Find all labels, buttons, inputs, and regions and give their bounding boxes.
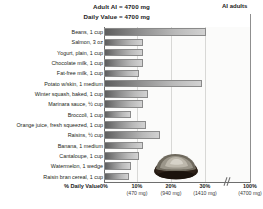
bar-row-label: Salmon, 3 oz bbox=[8, 37, 103, 47]
bar bbox=[104, 49, 143, 57]
x-tick-percent: 30% bbox=[185, 183, 225, 190]
bar-row: Raisin bran cereal, 1 cup bbox=[0, 172, 263, 182]
bar bbox=[104, 121, 146, 129]
bar-row: Banana, 1 medium bbox=[0, 141, 263, 151]
bar bbox=[104, 131, 160, 139]
header-daily-value: Daily Value = 4700 mg bbox=[0, 12, 150, 22]
bar-row: Orange juice, fresh squeezed, 1 cup bbox=[0, 120, 263, 130]
chart-header: Adult AI = 4700 mg Daily Value = 4700 mg bbox=[0, 2, 150, 21]
bar bbox=[104, 28, 206, 36]
bar-row: Broccoli, 1 cup bbox=[0, 110, 263, 120]
bar-row: Potato w/skin, 1 medium bbox=[0, 79, 263, 89]
bar-row-label: Winter squash, baked, 1 cup bbox=[8, 89, 103, 99]
bar-row: Cantaloupe, 1 cup bbox=[0, 151, 263, 161]
bar bbox=[104, 59, 143, 67]
x-tick-mg: (1410 mg) bbox=[185, 190, 225, 198]
potassium-bar-chart: Adult AI = 4700 mg Daily Value = 4700 mg… bbox=[0, 0, 263, 209]
x-tick-mg: (4700 mg) bbox=[230, 190, 263, 198]
bar-row: Chocolate milk, 1 cup bbox=[0, 58, 263, 68]
bar-rows: Beans, 1 cupSalmon, 3 ozYogurt, plain, 1… bbox=[0, 27, 263, 182]
bar-row-label: Broccoli, 1 cup bbox=[8, 110, 103, 120]
bar-row: Watermelon, 1 wedge bbox=[0, 161, 263, 171]
x-tick: 30%(1410 mg) bbox=[185, 183, 225, 198]
bar-row: Fat-free milk, 1 cup bbox=[0, 68, 263, 78]
bar-row-label: Marinara sauce, ½ cup bbox=[8, 99, 103, 109]
bar bbox=[104, 100, 143, 108]
x-axis-ticks: 0%10%(470 mg)20%(940 mg)30%(1410 mg)100%… bbox=[0, 183, 263, 207]
bar bbox=[104, 90, 148, 98]
bar-row: Marinara sauce, ½ cup bbox=[0, 99, 263, 109]
bar-row-label: Fat-free milk, 1 cup bbox=[8, 68, 103, 78]
bar-row: Yogurt, plain, 1 cup bbox=[0, 48, 263, 58]
bar-row-label: Potato w/skin, 1 medium bbox=[8, 79, 103, 89]
bar bbox=[104, 173, 129, 181]
bar bbox=[104, 142, 143, 150]
bar-row-label: Banana, 1 medium bbox=[8, 141, 103, 151]
potato-photo bbox=[152, 150, 200, 180]
bar-row: Beans, 1 cup bbox=[0, 27, 263, 37]
bar-row-label: Watermelon, 1 wedge bbox=[8, 161, 103, 171]
bar-row-label: Raisins, ½ cup bbox=[8, 130, 103, 140]
bar-row: Salmon, 3 oz bbox=[0, 37, 263, 47]
bar-row-label: Chocolate milk, 1 cup bbox=[8, 58, 103, 68]
bar bbox=[104, 39, 143, 47]
bar bbox=[104, 152, 139, 160]
bar bbox=[104, 111, 131, 119]
bar-row-label: Orange juice, fresh squeezed, 1 cup bbox=[8, 120, 103, 130]
bar-row-label: Yogurt, plain, 1 cup bbox=[8, 48, 103, 58]
bar-row: Winter squash, baked, 1 cup bbox=[0, 89, 263, 99]
bar-row: Raisins, ½ cup bbox=[0, 130, 263, 140]
bar-row-label: Raisin bran cereal, 1 cup bbox=[8, 172, 103, 182]
bar-row-label: Beans, 1 cup bbox=[8, 27, 103, 37]
bar bbox=[104, 70, 139, 78]
reference-line-label: AI adults bbox=[222, 3, 263, 9]
bar bbox=[104, 162, 131, 170]
x-tick-percent: 100% bbox=[230, 183, 263, 190]
bar-row-label: Cantaloupe, 1 cup bbox=[8, 151, 103, 161]
bar bbox=[104, 80, 202, 88]
header-adult-ai: Adult AI = 4700 mg bbox=[0, 2, 150, 12]
x-tick: 100%(4700 mg) bbox=[230, 183, 263, 198]
